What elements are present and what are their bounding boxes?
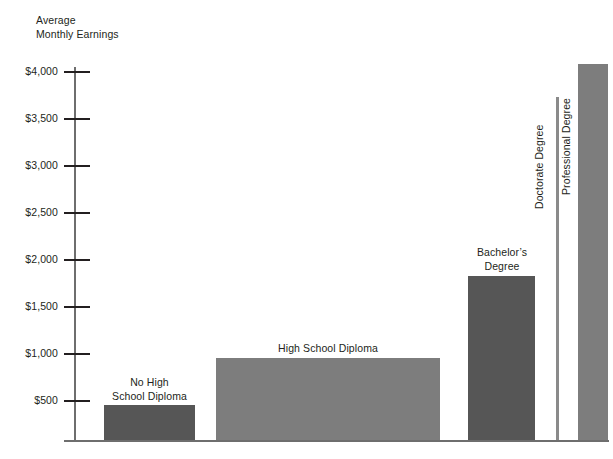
y-tick-3500 bbox=[64, 118, 90, 120]
y-tick-label-3000: $3,000 bbox=[0, 160, 58, 171]
x-axis-baseline bbox=[64, 440, 609, 442]
bar-label-line1: No High bbox=[92, 376, 207, 390]
bar-label-bachelors-degree: Bachelor’s Degree bbox=[442, 246, 562, 273]
bar-high-school-diploma[interactable] bbox=[216, 358, 440, 440]
y-tick-label-4000: $4,000 bbox=[0, 66, 58, 77]
y-axis-line bbox=[74, 67, 76, 441]
bar-no-high-school-diploma[interactable] bbox=[104, 405, 195, 440]
y-tick-2000 bbox=[64, 259, 90, 261]
y-tick-label-1500: $1,500 bbox=[0, 301, 58, 312]
bar-label-no-high-school-diploma: No High School Diploma bbox=[92, 376, 207, 403]
y-tick-label-3500: $3,500 bbox=[0, 113, 58, 124]
earnings-bar-chart: Average Monthly Earnings $4,000 $3,500 $… bbox=[0, 0, 613, 459]
y-tick-label-1000: $1,000 bbox=[0, 348, 58, 359]
bar-professional-degree[interactable] bbox=[578, 64, 608, 440]
y-axis-title-line2: Monthly Earnings bbox=[36, 28, 186, 42]
bar-label-professional-degree: Professional Degree bbox=[561, 98, 572, 195]
y-tick-label-2000: $2,000 bbox=[0, 254, 58, 265]
bar-label-doctorate-degree: Doctorate Degree bbox=[534, 125, 545, 209]
y-tick-label-500: $500 bbox=[0, 395, 58, 406]
y-tick-4000 bbox=[64, 71, 90, 73]
y-axis-title-line1: Average bbox=[36, 14, 186, 28]
bar-doctorate-degree[interactable] bbox=[556, 97, 559, 440]
y-tick-3000 bbox=[64, 165, 90, 167]
y-tick-1500 bbox=[64, 306, 90, 308]
bar-label-line1: Bachelor’s bbox=[442, 246, 562, 260]
bar-label-high-school-diploma: High School Diploma bbox=[216, 342, 440, 356]
y-tick-500 bbox=[64, 400, 90, 402]
y-tick-1000 bbox=[64, 353, 90, 355]
y-tick-2500 bbox=[64, 212, 90, 214]
y-tick-label-2500: $2,500 bbox=[0, 207, 58, 218]
bar-label-line2: School Diploma bbox=[92, 390, 207, 404]
bar-label-line2: Degree bbox=[442, 260, 562, 274]
y-axis-title: Average Monthly Earnings bbox=[36, 14, 186, 41]
bar-label-line1: High School Diploma bbox=[216, 342, 440, 356]
bar-bachelors-degree[interactable] bbox=[468, 276, 535, 440]
